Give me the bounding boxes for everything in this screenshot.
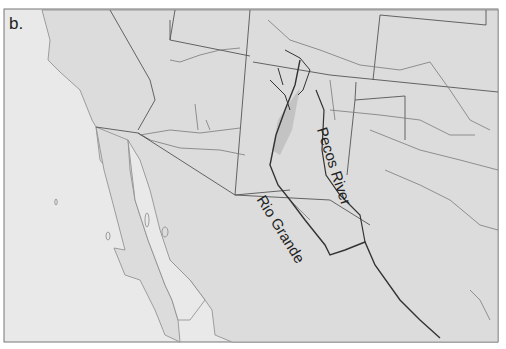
map [0, 0, 506, 349]
panel-label: b. [9, 14, 23, 34]
